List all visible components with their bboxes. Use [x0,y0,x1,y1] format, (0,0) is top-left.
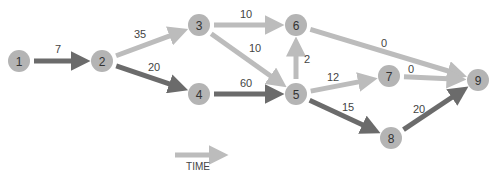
edge-arrow-3-5 [211,34,280,83]
node-label: 7 [386,70,393,84]
edge-duration-label: 7 [55,43,61,55]
edge-duration-label: 20 [413,103,425,115]
node-label: 6 [293,19,300,33]
node-label: 2 [99,55,106,69]
node-4: 4 [188,83,210,105]
node-label: 9 [475,74,482,88]
node-6: 6 [285,14,307,36]
edge-duration-label: 10 [249,42,261,54]
node-2: 2 [91,50,113,72]
edge-duration-label: 12 [327,71,339,83]
edge-duration-label: 15 [342,101,354,113]
node-label: 4 [196,88,203,102]
node-3: 3 [188,14,210,36]
edge-arrow-2-3 [116,32,181,56]
node-1: 1 [8,50,30,72]
edge-arrow-5-7 [311,80,371,92]
node-label: 5 [293,88,300,102]
time-legend-label: TIME [186,161,210,172]
network-graph-canvas: 73520101060201201520 123456789 TIME [0,0,498,181]
edge-duration-label: 20 [148,61,160,73]
node-label: 3 [196,19,203,33]
edge-arrow-7-9 [404,77,459,79]
node-label: 8 [388,132,395,146]
node-9: 9 [467,69,489,91]
edge-duration-label: 10 [240,8,252,20]
node-label: 1 [16,55,23,69]
edge-duration-label: 35 [134,28,146,40]
node-8: 8 [380,127,402,149]
edge-duration-label: 0 [408,63,414,75]
node-7: 7 [378,65,400,87]
edge-duration-label: 60 [240,77,252,89]
edge-duration-label: 0 [381,37,387,49]
time-legend: TIME [175,155,221,172]
node-5: 5 [285,83,307,105]
edge-duration-label: 2 [304,53,310,65]
network-diagram: 73520101060201201520 123456789 TIME [0,0,498,181]
